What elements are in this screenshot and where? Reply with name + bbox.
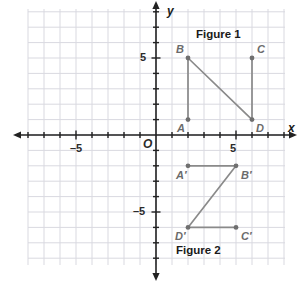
coordinate-plane-diagram: Figure 1 Figure 2 x y O –555–5 ABCDA′B′C… <box>0 0 304 282</box>
point-label-2: B <box>176 44 184 55</box>
point-label-4: D′ <box>175 231 186 242</box>
point-label-4: D <box>256 123 264 134</box>
point-label-2: B′ <box>241 170 252 181</box>
x-tick-label: 5 <box>230 143 236 154</box>
point-label-3: C <box>257 44 265 55</box>
y-tick-label: –5 <box>133 206 145 217</box>
figure2-caption: Figure 2 <box>176 244 221 256</box>
point-label-1: A′ <box>176 170 187 181</box>
y-axis-label: y <box>167 5 174 17</box>
point-label-1: A <box>177 123 185 134</box>
x-axis-label: x <box>288 122 295 134</box>
figure1-caption: Figure 1 <box>196 28 241 40</box>
origin-label: O <box>143 139 152 150</box>
point-label-3: C′ <box>241 231 252 242</box>
y-tick-label: 5 <box>140 52 146 63</box>
x-tick-label: –5 <box>70 143 82 154</box>
